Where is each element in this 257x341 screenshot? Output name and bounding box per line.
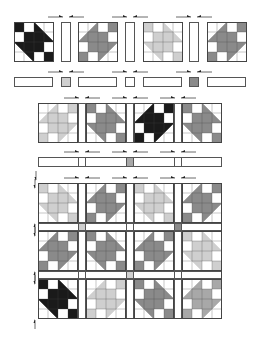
- pressing-arrow-icon: [160, 95, 196, 99]
- block-step1-3: [143, 22, 183, 62]
- block-step2-2: [86, 103, 126, 143]
- pressing-arrow-up-icon: [33, 315, 37, 333]
- pressing-arrow-icon: [48, 69, 84, 73]
- pressing-arrow-icon: [112, 95, 148, 99]
- block-step1-1: [14, 22, 54, 62]
- sashing-strip-vertical: [126, 103, 134, 143]
- sashing-strip-vertical: [174, 103, 182, 143]
- pressing-arrow-icon: [112, 69, 148, 73]
- block-step1-2: [78, 22, 118, 62]
- sashing-strip-horizontal: [78, 77, 117, 87]
- pressing-arrow-icon: [112, 149, 148, 153]
- quilt-top-border: [38, 183, 222, 319]
- pressing-arrow-icon: [48, 14, 84, 18]
- pressing-arrow-down-icon: [33, 175, 37, 193]
- cornerstone: [78, 157, 86, 167]
- sashing-strip-horizontal: [14, 77, 53, 87]
- pressing-arrow-down-icon: [33, 271, 37, 289]
- sashing-strip-vertical: [61, 22, 71, 62]
- cornerstone: [126, 157, 134, 167]
- pressing-arrow-icon: [160, 175, 196, 179]
- sashing-strip-vertical: [125, 22, 135, 62]
- sashing-strip-vertical: [189, 22, 199, 62]
- pressing-arrow-down-icon: [33, 223, 37, 241]
- block-step2-3: [134, 103, 174, 143]
- pressing-arrow-icon: [112, 14, 148, 18]
- pressing-arrow-icon: [176, 69, 212, 73]
- cornerstone: [125, 77, 135, 87]
- pressing-arrow-icon: [176, 14, 212, 18]
- block-step1-4: [207, 22, 247, 62]
- pressing-arrow-icon: [160, 149, 196, 153]
- block-step2-4: [182, 103, 222, 143]
- cornerstone: [174, 157, 182, 167]
- pressing-arrow-icon: [64, 175, 100, 179]
- block-step2-1: [38, 103, 78, 143]
- cornerstone: [61, 77, 71, 87]
- sashing-strip-vertical: [78, 103, 86, 143]
- pressing-arrow-icon: [64, 149, 100, 153]
- pressing-arrow-icon: [112, 175, 148, 179]
- pressing-arrow-icon: [64, 95, 100, 99]
- cornerstone: [189, 77, 199, 87]
- sashing-strip-horizontal: [207, 77, 246, 87]
- sashing-strip-horizontal: [143, 77, 182, 87]
